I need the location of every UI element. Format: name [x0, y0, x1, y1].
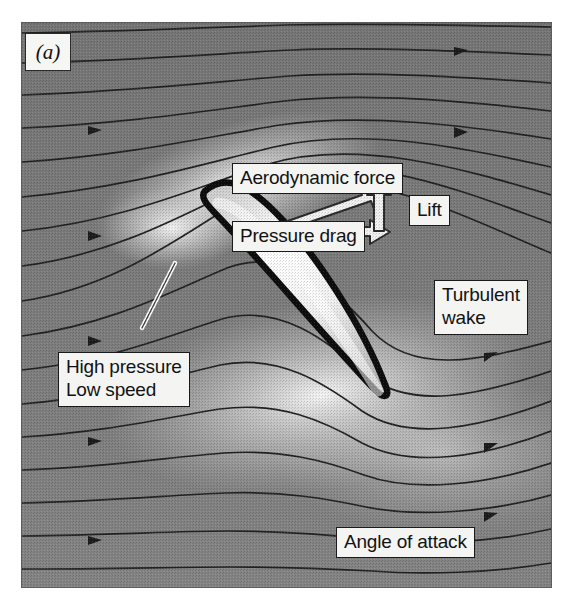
label-pressure-drag: Pressure drag [232, 221, 365, 252]
figure-root: (a) Aerodynamic force Lift Pressure drag… [0, 0, 581, 599]
panel-label: (a) [25, 33, 71, 71]
label-aerodynamic-force: Aerodynamic force [232, 163, 403, 194]
label-angle-of-attack: Angle of attack [336, 527, 475, 558]
label-turbulent-wake: Turbulent wake [434, 280, 528, 335]
label-lift: Lift [409, 195, 450, 226]
label-high-pressure-low-speed: High pressure Low speed [58, 352, 190, 407]
